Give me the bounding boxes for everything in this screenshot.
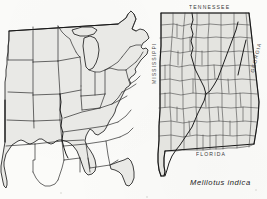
species-caption: Melilotus indica	[190, 178, 251, 187]
state-label-tennessee: TENNESSEE	[189, 5, 230, 10]
texas-outline	[33, 144, 64, 186]
state-label-mississippi: MISSISSIPPI	[152, 43, 157, 84]
scan-speckle	[146, 196, 148, 198]
alabama-county-map	[152, 0, 267, 199]
scan-speckle	[60, 192, 62, 194]
distribution-map-figure: TENNESSEE MISSISSIPPI GEORGIA FLORIDA Me…	[0, 0, 267, 199]
eastern-united-states-outline-map	[0, 0, 160, 199]
state-label-florida: FLORIDA	[196, 152, 226, 157]
scan-speckle	[255, 189, 257, 191]
florida-peninsula	[110, 158, 134, 186]
